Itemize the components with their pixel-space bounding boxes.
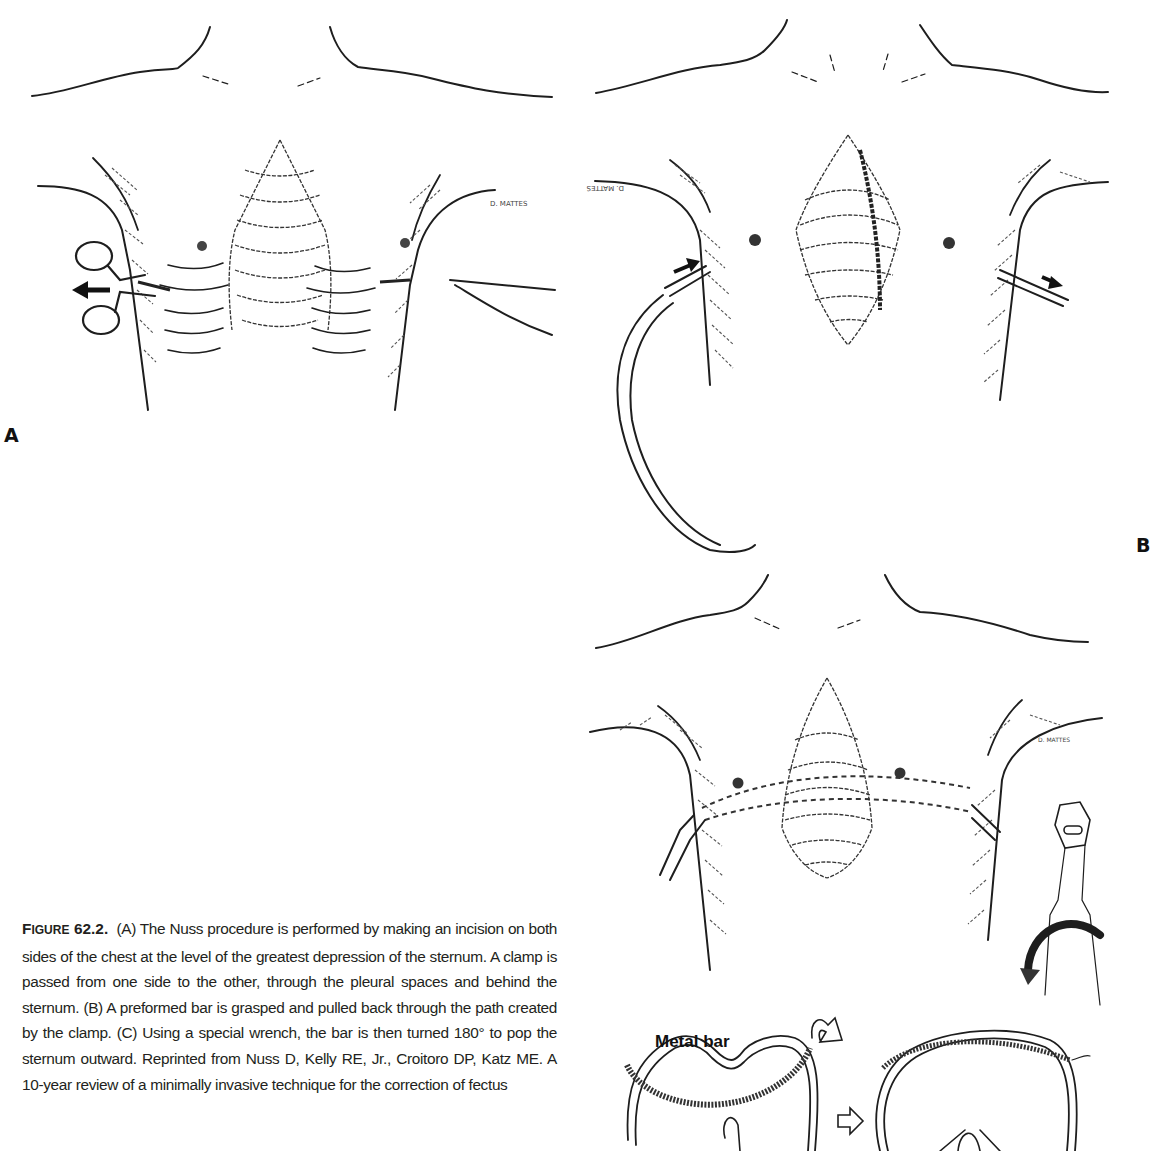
artist-signature: D. MATTES [490, 200, 528, 208]
artist-signature: D. MATTES [1038, 736, 1070, 743]
cross-section-before [627, 1036, 818, 1151]
figure-caption: FIGURE 62.2. (A) The Nuss procedure is p… [22, 916, 557, 1097]
metal-bar-label: Metal bar [655, 1032, 730, 1052]
panel-b-illustration: D. MATTES [580, 0, 1154, 570]
figure-caption-heading: FIGURE 62.2. [22, 920, 108, 937]
figure-panel-a: D. MATTES [0, 0, 580, 460]
artist-signature: D. MATTES [586, 184, 624, 192]
panel-label-a: A [4, 424, 19, 446]
panel-a-illustration: D. MATTES [0, 0, 580, 460]
cross-section-after [876, 1031, 1090, 1151]
figure-panel-b: D. MATTES [580, 0, 1154, 570]
figure-caption-text: (A) The Nuss procedure is performed by m… [22, 920, 557, 1093]
figure-panel-c: D. MATTES [580, 570, 1154, 1151]
panel-label-b: B [1136, 534, 1150, 556]
panel-c-illustration: D. MATTES [580, 570, 1154, 1151]
